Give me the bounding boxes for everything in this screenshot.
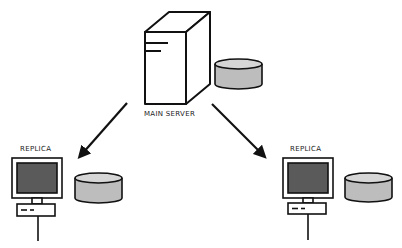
main-server-label: MAIN SERVER: [144, 110, 195, 118]
main-database-icon: [215, 59, 262, 89]
replica-right-database-icon: [345, 173, 392, 202]
replica-left-label: REPLICA: [20, 145, 51, 153]
replica-left-workstation-icon: [12, 158, 62, 241]
replication-diagram: [0, 0, 402, 248]
main-server-icon: [145, 12, 210, 104]
replica-left-database-icon: [75, 173, 122, 203]
replica-right-workstation-icon: [283, 158, 333, 240]
replication-arrow-left: [82, 103, 127, 154]
replication-arrow-right: [212, 104, 262, 154]
replica-right-label: REPLICA: [290, 145, 321, 153]
